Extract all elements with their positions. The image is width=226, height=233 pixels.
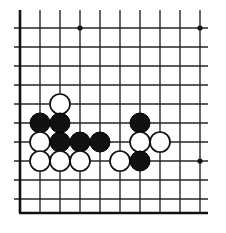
stone-black-2[interactable] [50,113,70,133]
stone-white-0[interactable] [50,94,70,114]
star-point-2 [197,158,202,163]
stone-white-9[interactable] [150,132,170,152]
star-point-0 [77,25,82,30]
board-grid [0,0,226,233]
stone-white-10[interactable] [30,151,50,171]
stone-white-13[interactable] [110,151,130,171]
stone-black-7[interactable] [90,132,110,152]
stone-white-4[interactable] [30,132,50,152]
stone-white-8[interactable] [130,132,150,152]
stone-black-5[interactable] [50,132,70,152]
stone-black-1[interactable] [30,113,50,133]
stone-black-14[interactable] [130,151,150,171]
stone-white-12[interactable] [70,151,90,171]
star-point-1 [197,25,202,30]
stone-black-3[interactable] [130,113,150,133]
board-surface [0,0,226,233]
go-board-diagram [0,0,226,233]
stone-white-11[interactable] [50,151,70,171]
stone-black-6[interactable] [70,132,90,152]
